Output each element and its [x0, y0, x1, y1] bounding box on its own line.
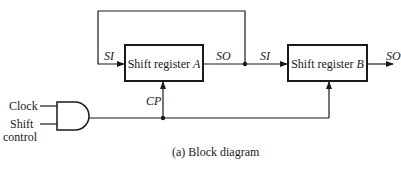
and-gate	[57, 102, 89, 130]
si-b-label: SI	[260, 50, 270, 62]
junction-dot	[243, 62, 247, 66]
shift-register-b-label-prefix: Shift register	[291, 57, 356, 71]
shift-register-b-label: Shift register B	[288, 58, 367, 70]
shift-control-label-line1: Shift	[10, 118, 33, 130]
block-diagram	[0, 0, 401, 192]
so-b-label: SO	[386, 50, 401, 62]
so-a-label: SO	[216, 50, 231, 62]
shift-control-label-line2: control	[3, 131, 37, 143]
shift-register-a-label: Shift register A	[125, 58, 203, 70]
shift-register-a-label-prefix: Shift register	[128, 57, 193, 71]
clock-input-label: Clock	[9, 100, 38, 112]
cp-label: CP	[146, 95, 161, 107]
shift-register-b-label-suffix: B	[356, 57, 363, 71]
figure-caption: (a) Block diagram	[172, 146, 259, 158]
si-a-label: SI	[104, 50, 114, 62]
shift-register-a-label-suffix: A	[193, 57, 200, 71]
